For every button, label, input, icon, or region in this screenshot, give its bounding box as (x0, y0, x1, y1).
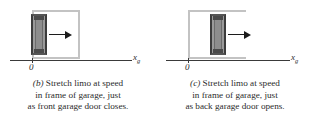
limo-body-b (31, 14, 47, 55)
x-axis-label-b: xg (133, 53, 140, 65)
garage-wall-right (78, 10, 80, 59)
physics-figure-limo-garage: 0 xg (b) Stretch limo at speed in frame … (0, 0, 313, 123)
x-axis-label-sub-c: g (295, 57, 298, 64)
caption-line-2: in frame of garage, just (159, 90, 311, 102)
panel-b-diagram: 0 xg (0, 0, 156, 76)
x-axis-origin-label-c: 0 (185, 63, 190, 72)
velocity-arrow-shaft-c (228, 34, 245, 35)
limo-window-band (214, 20, 222, 49)
caption-line-3: as front garage door closes. (2, 101, 154, 113)
panel-c-label: (c) (190, 78, 200, 88)
garage-wall-bottom (32, 57, 80, 59)
limo-rear-cap (34, 49, 44, 53)
panel-c-diagram: 0 xg (157, 0, 313, 76)
garage-wall-top (32, 10, 80, 12)
panel-c: 0 xg (c) Stretch limo at speed in frame … (157, 0, 313, 123)
panel-b-caption: (b) Stretch limo at speed in frame of ga… (2, 78, 154, 113)
x-axis-label-sub-b: g (137, 57, 140, 64)
garage-wall-top (188, 10, 246, 12)
x-axis-label-c: xg (291, 53, 298, 65)
x-axis-line-c (166, 60, 290, 61)
velocity-arrow-head-c (244, 31, 251, 39)
garage-wall-left (188, 10, 190, 59)
caption-text-1: Stretch limo at speed (46, 78, 123, 88)
panel-b-label: (b) (33, 78, 44, 88)
caption-line-2: in frame of garage, just (2, 90, 154, 102)
caption-line-1: (b) Stretch limo at speed (2, 78, 154, 90)
x-axis-origin-label-b: 0 (29, 63, 34, 72)
limo-rear-cap (213, 49, 223, 53)
garage-wall-bottom (188, 57, 246, 59)
panel-b: 0 xg (b) Stretch limo at speed in frame … (0, 0, 156, 123)
limo-front-cap (213, 16, 223, 20)
caption-line-3: as back garage door opens. (159, 101, 311, 113)
velocity-arrow-shaft-b (49, 34, 66, 35)
limo-body-c (210, 14, 226, 55)
caption-text-1: Stretch limo at speed (203, 78, 280, 88)
limo-window-band (35, 20, 43, 49)
limo-front-cap (34, 16, 44, 20)
caption-line-1: (c) Stretch limo at speed (159, 78, 311, 90)
x-axis-line-b (10, 60, 132, 61)
panel-c-caption: (c) Stretch limo at speed in frame of ga… (159, 78, 311, 113)
velocity-arrow-head-b (65, 31, 72, 39)
